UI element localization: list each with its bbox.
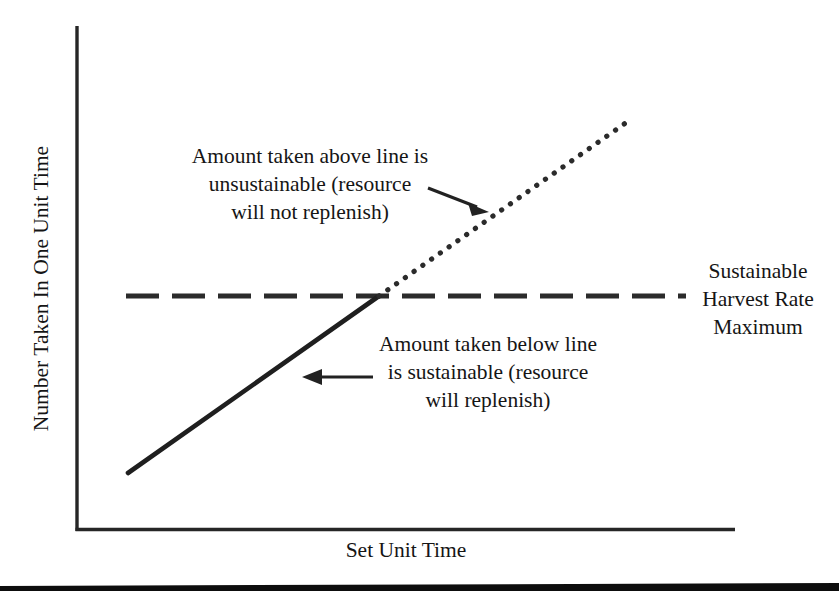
sustainable-harvest-segment — [128, 296, 379, 473]
annotation-below-line: Amount taken below line is sustainable (… — [368, 331, 608, 415]
annotation-above-line: Amount taken above line is unsustainable… — [188, 143, 432, 227]
sustainable-harvest-chart: Number Taken In One Unit Time Set Unit T… — [0, 0, 839, 602]
page-bottom-rule-taper — [0, 583, 839, 586]
threshold-label: Sustainable Harvest Rate Maximum — [688, 258, 828, 342]
arrow-to-sustainable-icon — [302, 369, 373, 385]
x-axis-title: Set Unit Time — [266, 538, 546, 563]
y-axis-title: Number Taken In One Unit Time — [29, 124, 54, 454]
arrow-to-unsustainable-icon — [428, 188, 489, 216]
page-bottom-rule — [0, 586, 839, 591]
